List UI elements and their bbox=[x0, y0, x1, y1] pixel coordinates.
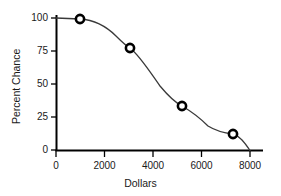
y-tick-label-100: 100 bbox=[10, 13, 48, 23]
data-point-marker bbox=[76, 15, 84, 23]
chart-container: 100 75 50 25 0 0 2000 4000 6000 8000 Per… bbox=[0, 0, 281, 196]
x-tick-label-6000: 6000 bbox=[182, 161, 222, 171]
data-point-marker bbox=[126, 44, 134, 52]
data-point-marker bbox=[178, 102, 186, 110]
x-axis-title: Dollars bbox=[0, 177, 281, 189]
data-line-series-1 bbox=[56, 18, 250, 151]
y-axis-title: Percent Chance bbox=[10, 49, 22, 124]
x-tick-label-2000: 2000 bbox=[85, 161, 125, 171]
x-tick-label-8000: 8000 bbox=[230, 161, 270, 171]
y-tick-label-0: 0 bbox=[10, 145, 48, 155]
data-point-marker bbox=[229, 130, 237, 138]
x-tick-label-4000: 4000 bbox=[133, 161, 173, 171]
x-tick-label-0: 0 bbox=[36, 161, 76, 171]
data-markers bbox=[76, 15, 237, 138]
